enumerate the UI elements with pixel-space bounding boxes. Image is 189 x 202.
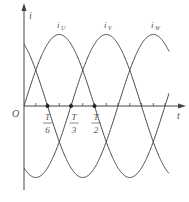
x-axis-label: t	[177, 110, 180, 121]
svg-text:i: i	[151, 20, 154, 30]
svg-text:6: 6	[45, 125, 50, 135]
y-axis-arrow-icon	[22, 3, 27, 11]
marked-point-dot	[93, 104, 97, 108]
svg-text:i: i	[104, 20, 107, 30]
y-axis-label: i	[29, 10, 32, 21]
series-label-iu: i U	[57, 20, 66, 31]
marked-point-dot	[46, 104, 50, 108]
svg-text:3: 3	[71, 125, 77, 135]
svg-text:T: T	[71, 112, 77, 122]
svg-text:2: 2	[94, 125, 99, 135]
series-label-iv: i V	[104, 20, 113, 31]
x-axis-arrow-icon	[178, 104, 186, 109]
svg-text:U: U	[61, 25, 66, 31]
svg-text:i: i	[57, 20, 60, 30]
svg-text:W: W	[155, 25, 161, 31]
marked-point-dot	[69, 104, 73, 108]
series-label-iw: i W	[151, 20, 161, 31]
label-t-over-2: T 2	[92, 112, 101, 135]
three-phase-current-diagram: i t O i U i V i W T 6 T 3 T 2	[0, 0, 189, 202]
origin-label: O	[12, 108, 19, 119]
label-t-over-3: T 3	[70, 112, 79, 135]
svg-text:V: V	[108, 25, 113, 31]
